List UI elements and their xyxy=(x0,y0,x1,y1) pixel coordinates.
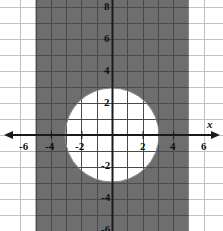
y-tick-label-pos6: 6 xyxy=(104,33,110,44)
x-tick-label-pos4: 4 xyxy=(170,141,176,152)
coordinate-plane-graph: x -6 -4 -2 2 4 6 8 6 4 2 -2 -4 -6 xyxy=(0,0,223,231)
x-tick-label-pos6: 6 xyxy=(201,141,207,152)
x-axis-label: x xyxy=(207,118,213,130)
y-tick-label-neg6: -6 xyxy=(101,224,110,231)
y-tick-label-neg4: -4 xyxy=(101,192,110,203)
graph-canvas xyxy=(0,0,223,231)
y-tick-label-pos4: 4 xyxy=(104,65,110,76)
y-tick-label-pos2: 2 xyxy=(104,97,110,108)
x-tick-label-neg6: -6 xyxy=(19,141,28,152)
y-tick-label-neg2: -2 xyxy=(101,160,110,171)
x-tick-label-neg4: -4 xyxy=(45,141,54,152)
y-tick-label-pos8: 8 xyxy=(104,1,110,12)
x-tick-label-pos2: 2 xyxy=(140,141,146,152)
x-tick-label-neg2: -2 xyxy=(75,141,84,152)
